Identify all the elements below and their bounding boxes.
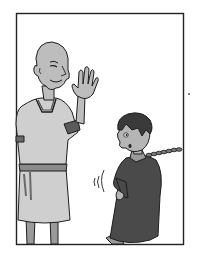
man-belt [19,164,67,171]
man-raised-arm [76,96,85,124]
comic-panel [0,0,199,258]
stray-mark [188,93,190,95]
boy-mouth [128,144,131,148]
